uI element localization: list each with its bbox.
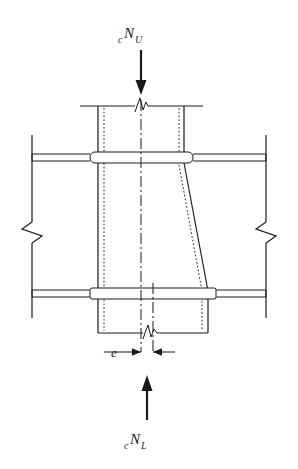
top-load-label-prefix: c (118, 34, 123, 45)
lower-column-break-symbol (143, 325, 157, 339)
bottom-load-label: c N L (124, 431, 147, 451)
lower-column-hidden-line-taper (179, 165, 202, 291)
top-load-arrow-head (136, 80, 147, 95)
top-load-label-symbol: N (123, 25, 135, 41)
upper-beam (32, 152, 266, 163)
eccentricity-label: e (111, 345, 117, 360)
top-load-label-subscript: U (135, 34, 143, 45)
top-load-label: c N U (118, 25, 143, 45)
bottom-load-label-subscript: L (140, 440, 147, 451)
lower-column-tapered-right-face (184, 163, 208, 291)
centerlines (141, 100, 153, 352)
eccentricity-arrow-head-left (132, 348, 141, 356)
bottom-load-arrow (142, 375, 153, 420)
lower-beam (32, 288, 266, 299)
figure-root: c N U (0, 0, 298, 469)
left-adjacent-column-break-icon (22, 222, 42, 243)
top-load-arrow (136, 50, 147, 95)
eccentricity-dimension: e (104, 345, 175, 360)
column-splice-diagram: c N U (0, 0, 298, 469)
eccentricity-arrow-head-right (153, 348, 162, 356)
bottom-load-label-prefix: c (124, 440, 129, 451)
right-adjacent-column-break-icon (256, 222, 276, 243)
bottom-load-label-symbol: N (129, 431, 141, 447)
bottom-load-arrow-head (142, 375, 153, 391)
